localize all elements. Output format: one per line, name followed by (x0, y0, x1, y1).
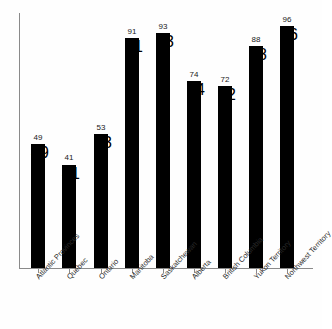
bar: 96 (280, 26, 294, 268)
bar-value-label: 96 (275, 15, 299, 24)
y-axis-line (19, 13, 20, 269)
bar: 93 (156, 33, 170, 268)
bar-value-label: 53 (89, 123, 113, 132)
bar: 91 (125, 38, 139, 268)
bar: 49 (31, 144, 45, 268)
bar: 53 (94, 134, 108, 268)
bar-value-label: 91 (120, 27, 144, 36)
bar: 88 (249, 46, 263, 268)
bar-value-label: 93 (151, 22, 175, 31)
bar-value-label: 72 (213, 75, 237, 84)
bar-value-label: 41 (57, 153, 81, 162)
bar-value-label: 88 (244, 35, 268, 44)
bar: 72 (218, 86, 232, 268)
bar-value-label: 74 (182, 70, 206, 79)
bar-value-label: 49 (26, 133, 50, 142)
